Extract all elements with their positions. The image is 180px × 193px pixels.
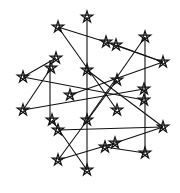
background xyxy=(0,0,180,193)
star-pattern-figure xyxy=(0,0,180,193)
